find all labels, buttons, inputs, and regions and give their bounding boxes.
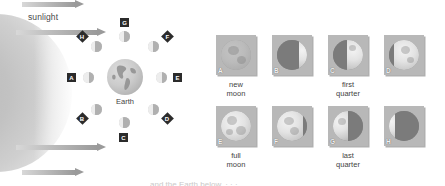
moon-photo-c-label: C <box>330 68 335 75</box>
orbit-moon-g <box>119 31 130 42</box>
clipped-footer-text: and the Earth below. · · · <box>150 180 445 186</box>
orbit-moon-e <box>156 72 167 83</box>
moon-photo-a-label: A <box>218 68 223 75</box>
moon-photo-d-label: D <box>386 68 391 75</box>
moon-photo-c: C <box>328 35 368 75</box>
orbit-badge-d-letter: D <box>165 116 169 122</box>
sunlight-arrow-2 <box>16 28 106 37</box>
moon-photo-a: A <box>216 35 256 75</box>
moon-photo-h-label: H <box>386 139 391 146</box>
caption-last-quarter-line1: last <box>320 151 376 160</box>
orbit-badge-h-letter: H <box>80 34 84 40</box>
moon-photo-g-label: G <box>330 139 335 146</box>
orbit-moon-c <box>119 117 130 128</box>
orbit-badge-e: E <box>173 73 182 82</box>
orbit-badge-b-letter: B <box>80 116 84 122</box>
moon-photo-d: D <box>384 35 424 75</box>
caption-first-quarter-line2: quarter <box>320 89 376 98</box>
orbit-moon-h <box>91 41 102 52</box>
caption-first-quarter-line1: first <box>320 80 376 89</box>
moon-photo-g: G <box>328 106 368 146</box>
orbit-badge-e-letter: E <box>175 75 179 81</box>
moon-photo-f-label: F <box>274 139 278 146</box>
moon-photo-f: F <box>272 106 312 146</box>
orbit-badge-g: G <box>120 18 129 27</box>
sunlight-arrow-4 <box>22 168 84 177</box>
orbit-badge-d: D <box>161 112 174 125</box>
caption-first-quarter: first quarter <box>320 80 376 98</box>
orbit-badge-c: C <box>119 133 128 142</box>
caption-full-moon-line1: full <box>208 151 264 160</box>
sunlight-label: sunlight <box>28 12 58 22</box>
orbit-moon-d <box>148 104 159 115</box>
moon-photo-h: H <box>384 106 424 146</box>
moon-photo-e: E <box>216 106 256 146</box>
caption-last-quarter-line2: quarter <box>320 160 376 169</box>
orbit-moon-a <box>83 72 94 83</box>
orbit-moon-f <box>148 41 159 52</box>
sunlight-arrow-3 <box>16 143 106 152</box>
caption-last-quarter: last quarter <box>320 151 376 169</box>
earth-label: Earth <box>107 97 143 106</box>
earth-globe <box>107 59 143 95</box>
orbit-badge-c-letter: C <box>121 135 125 141</box>
caption-full-moon: full moon <box>208 151 264 169</box>
sunlight-arrow-1 <box>22 0 84 9</box>
figure-canvas: sunlight Earth A B C D <box>0 0 445 186</box>
caption-new-moon-line2: moon <box>208 89 264 98</box>
moon-photo-e-label: E <box>218 139 222 146</box>
orbit-badge-f: F <box>161 30 174 43</box>
orbit-badge-f-letter: F <box>166 33 170 39</box>
orbit-badge-g-letter: G <box>122 20 127 26</box>
caption-full-moon-line2: moon <box>208 160 264 169</box>
caption-new-moon-line1: new <box>208 80 264 89</box>
moon-photo-b: B <box>272 35 312 75</box>
orbit-badge-a: A <box>67 73 76 82</box>
orbit-moon-b <box>91 104 102 115</box>
orbit-badge-a-letter: A <box>69 75 73 81</box>
moon-photo-b-label: B <box>274 68 279 75</box>
caption-new-moon: new moon <box>208 80 264 98</box>
orbit-badge-b: B <box>76 112 89 125</box>
